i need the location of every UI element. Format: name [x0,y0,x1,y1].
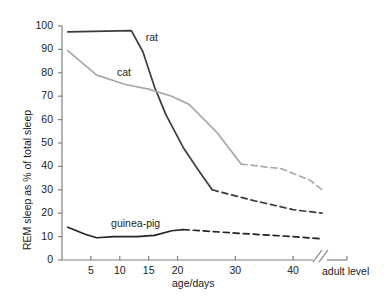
x-axis-tick-label: 30 [221,265,249,276]
series-line-rat-dashed [212,190,322,213]
axis-break-icon [313,250,328,262]
y-axis-tick-label: 0 [0,254,53,265]
series-label-cat: cat [117,67,131,78]
series-line-cat-dashed [241,164,322,190]
series-line-rat-solid [68,31,212,190]
x-axis-title: age/days [172,278,215,289]
x-axis-tick-label: 10 [106,265,134,276]
x-axis-tick-label: 20 [164,265,192,276]
series-label-rat: rat [146,32,158,43]
y-axis-title: REM sleep as % of total sleep [22,110,33,250]
series-line-guinea-pig-solid [68,227,184,238]
y-axis-tick-label: 90 [0,43,53,54]
x-axis-tick-label: 40 [279,265,307,276]
series-label-guinea-pig: guinea-pig [111,218,160,229]
y-axis-tick-label: 100 [0,20,53,31]
adult-level-label: adult level [322,265,369,277]
series-paths [68,31,322,239]
x-axis-tick-label: 15 [135,265,163,276]
y-axis-tick-label: 70 [0,90,53,101]
y-axis-tick-label: 80 [0,67,53,78]
series-line-cat-solid [68,51,241,164]
series-line-guinea-pig-dashed [183,230,322,239]
rem-sleep-line-chart: 0102030405060708090100 51015203040 ratca… [0,0,387,307]
plot-area [0,0,387,307]
x-axis-tick-label: 5 [77,265,105,276]
